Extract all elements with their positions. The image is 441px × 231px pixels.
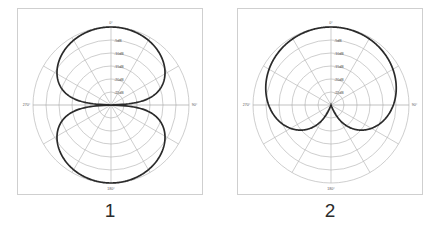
grid-spoke-30: [111, 37, 150, 105]
radial-tick-labels-2: -5dB -10dB -15dB -20dB -25dB: [334, 39, 344, 95]
grid-spoke-120: [111, 105, 179, 144]
grid-spoke-120: [331, 105, 399, 144]
grid-spoke-150: [111, 105, 150, 173]
grid-spoke-330: [72, 37, 111, 105]
radial-label-20db: -20dB: [114, 78, 124, 82]
figure-1: 0° 90° 180° 270° -5dB -10dB -15dB -20dB …: [0, 0, 220, 231]
radial-label-15db: -15dB: [114, 65, 124, 69]
figure-2: 0° 90° 180° 270° -5dB -10dB -15dB -20dB …: [220, 0, 440, 231]
angle-label-top: 0°: [329, 21, 333, 25]
grid-spoke-60: [111, 66, 179, 105]
grid-spoke-330: [292, 37, 331, 105]
radial-label-20db: -20dB: [334, 78, 344, 82]
grid-spoke-60: [331, 66, 399, 105]
radial-label-25db: -25dB: [334, 91, 344, 95]
grid-spoke-300: [263, 66, 331, 105]
angle-label-left: 270°: [243, 103, 251, 107]
radial-label-10db: -10dB: [334, 52, 344, 56]
radial-label-25db: -25dB: [114, 91, 124, 95]
figure-caption-2: 2: [220, 198, 440, 224]
radial-label-5db: -5dB: [114, 39, 122, 43]
angle-label-bottom: 180°: [327, 187, 335, 191]
polar-plot-frame-1: 0° 90° 180° 270° -5dB -10dB -15dB -20dB …: [17, 8, 203, 195]
grid-spoke-300: [43, 66, 111, 105]
polar-plot-svg-1: 0° 90° 180° 270° -5dB -10dB -15dB -20dB …: [18, 9, 204, 196]
polar-plot-frame-2: 0° 90° 180° 270° -5dB -10dB -15dB -20dB …: [237, 8, 423, 195]
radial-label-10db: -10dB: [114, 52, 124, 56]
grid-spoke-240: [263, 105, 331, 144]
radial-label-5db: -5dB: [334, 39, 342, 43]
grid-spoke-210: [72, 105, 111, 173]
angle-label-top: 0°: [109, 21, 113, 25]
grid-spoke-30: [331, 37, 370, 105]
polar-plot-svg-2: 0° 90° 180° 270° -5dB -10dB -15dB -20dB …: [238, 9, 424, 196]
angle-label-right: 90°: [412, 103, 418, 107]
angle-label-right: 90°: [192, 103, 198, 107]
angle-label-bottom: 180°: [107, 187, 115, 191]
polar-pattern-figure-pair: 0° 90° 180° 270° -5dB -10dB -15dB -20dB …: [0, 0, 441, 231]
figure-caption-1: 1: [0, 198, 220, 224]
radial-label-15db: -15dB: [334, 65, 344, 69]
radial-tick-labels-1: -5dB -10dB -15dB -20dB -25dB: [114, 39, 124, 95]
grid-spoke-240: [43, 105, 111, 144]
angle-label-left: 270°: [23, 103, 31, 107]
